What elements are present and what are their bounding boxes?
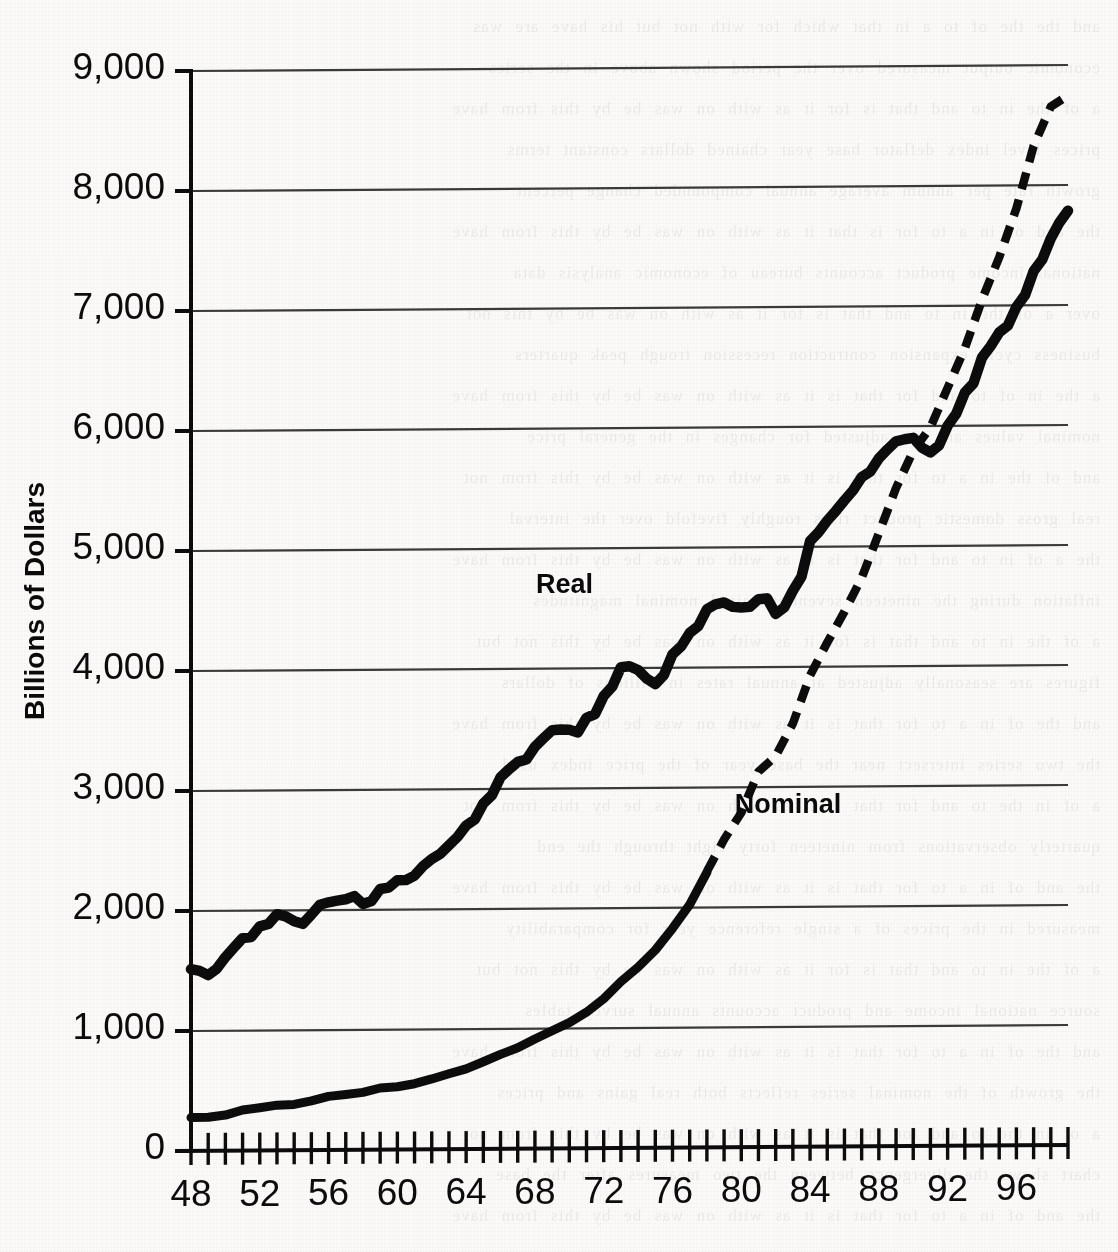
gridline-6000	[191, 425, 1068, 431]
real-path	[191, 211, 1068, 975]
chart-page: and the the of to a in that which for wi…	[0, 0, 1118, 1252]
y-axis-title: Billions of Dollars	[19, 471, 51, 731]
gridline-1000	[191, 1025, 1068, 1031]
gridline-9000	[191, 65, 1068, 71]
y-tick-label-6000: 6,000	[72, 406, 165, 448]
y-tick-label-0: 0	[144, 1126, 165, 1168]
series-nominal-line	[191, 95, 1068, 1117]
gridline-5000	[191, 545, 1068, 551]
y-tick-label-9000: 9,000	[72, 46, 165, 88]
gridline-3000	[191, 785, 1068, 791]
y-tick-label-4000: 4,000	[72, 646, 165, 688]
gridlines-group	[191, 65, 1068, 1031]
y-tick-label-5000: 5,000	[72, 526, 165, 568]
y-tick-label-2000: 2,000	[72, 886, 165, 928]
series-real-line	[191, 211, 1068, 975]
y-tick-label-1000: 1,000	[72, 1006, 165, 1048]
series-label-real: Real	[536, 569, 593, 600]
y-tick-label-3000: 3,000	[72, 766, 165, 808]
gridline-8000	[191, 185, 1068, 191]
line-chart-plot	[0, 0, 1118, 1252]
y-tick-label-7000: 7,000	[72, 286, 165, 328]
nominal-path-dashed	[707, 95, 1068, 871]
x-tick-label-96: 96	[971, 1167, 1061, 1209]
series-label-nominal: Nominal	[735, 789, 842, 820]
gridline-7000	[191, 305, 1068, 311]
y-tick-label-8000: 8,000	[72, 166, 165, 208]
